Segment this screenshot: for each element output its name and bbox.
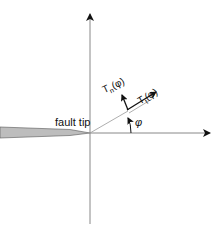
- angle-arc: [128, 118, 131, 133]
- fault-wedge: [0, 127, 90, 138]
- fault-tip-diagram: fault tip φ Tn(φ) Tt(φ): [0, 0, 216, 231]
- fault-tip-label: fault tip: [55, 116, 90, 128]
- phi-direction-line: [90, 111, 128, 133]
- angle-phi-label: φ: [135, 116, 142, 128]
- normal-traction-arrow: [122, 95, 128, 110]
- diagram-canvas: [0, 0, 216, 231]
